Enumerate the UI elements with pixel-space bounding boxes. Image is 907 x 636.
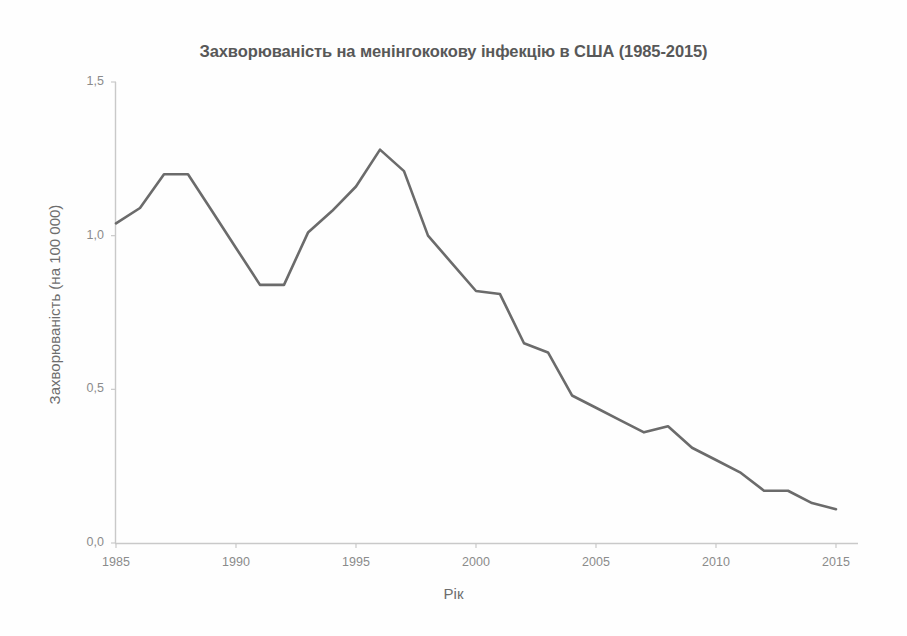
x-tick-label: 1990 [206,555,266,569]
axis-spines [115,82,858,544]
x-tick-label: 2010 [686,555,746,569]
x-tick-label: 1985 [86,555,146,569]
y-tick-label: 1,0 [62,228,104,242]
x-tick-label: 2015 [806,555,866,569]
y-axis-title: Захворюваність (на 100 000) [46,155,63,455]
y-tick-label: 0,5 [62,381,104,395]
tick-marks [111,82,836,548]
x-tick-label: 2005 [566,555,626,569]
plot-area [0,0,907,636]
x-tick-label: 1995 [326,555,386,569]
x-axis-title: Рік [0,585,907,602]
y-tick-label: 1,5 [62,74,104,88]
chart-figure: Захворюваність на менінгококову інфекцію… [0,0,907,636]
data-series-line [116,150,836,510]
y-tick-label: 0,0 [62,535,104,549]
x-tick-label: 2000 [446,555,506,569]
